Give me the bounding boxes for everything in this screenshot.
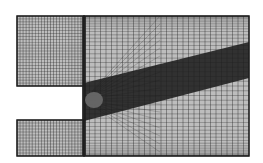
lower-inlet-region	[17, 120, 84, 156]
mesh-diagram	[0, 0, 263, 163]
recirculation-zone	[85, 92, 103, 108]
inlet-interface-line	[82, 16, 86, 156]
upper-inlet-region	[17, 16, 84, 86]
